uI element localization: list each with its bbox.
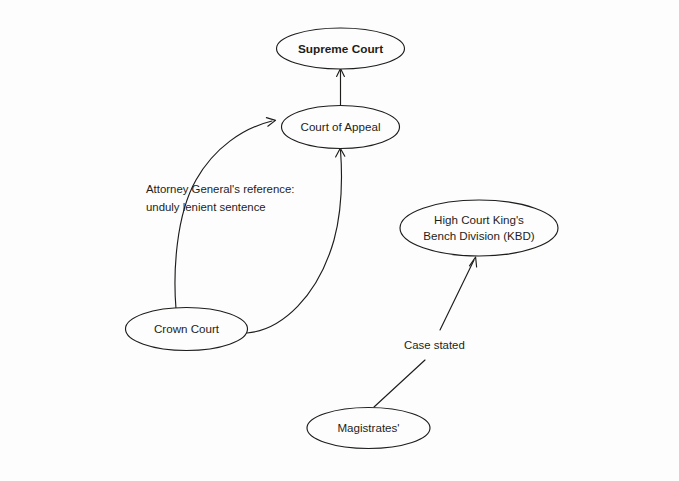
node-label-high-court-line1: High Court King's xyxy=(434,213,524,226)
edge-label-ag-line2: unduly lenient sentence xyxy=(146,201,266,213)
node-court-of-appeal[interactable]: Court of Appeal xyxy=(282,106,400,149)
edge-label-ag-line1: Attorney General's reference: xyxy=(146,183,294,195)
node-label-magistrates: Magistrates' xyxy=(337,421,399,434)
edge-crown-court-to-court-of-appeal-appeal xyxy=(247,148,345,333)
edge-curve xyxy=(247,150,341,333)
diagram-canvas: Supreme Court Court of Appeal High Court… xyxy=(0,0,679,481)
node-label-court-of-appeal: Court of Appeal xyxy=(301,120,381,133)
node-supreme-court[interactable]: Supreme Court xyxy=(277,28,405,69)
node-high-court-kbd[interactable]: High Court King's Bench Division (KBD) xyxy=(400,200,558,256)
node-magistrates[interactable]: Magistrates' xyxy=(307,408,430,449)
edge-label-case-stated-text: Case stated xyxy=(404,339,465,351)
node-crown-court[interactable]: Crown Court xyxy=(126,308,248,351)
node-label-supreme-court: Supreme Court xyxy=(298,42,383,56)
node-label-high-court-line2: Bench Division (KBD) xyxy=(423,229,535,242)
edge-label-case-stated: Case stated xyxy=(404,339,465,351)
edge-label-attorney-general-reference: Attorney General's reference: unduly len… xyxy=(146,183,294,213)
node-label-crown-court: Crown Court xyxy=(154,322,220,335)
court-hierarchy-diagram: Supreme Court Court of Appeal High Court… xyxy=(0,0,679,481)
edge-line-upper xyxy=(440,260,474,330)
edge-line-lower xyxy=(374,360,425,407)
edge-court-of-appeal-to-supreme-court xyxy=(337,69,345,106)
edge-curve xyxy=(175,121,272,309)
edge-magistrates-to-high-court-case-stated xyxy=(374,257,477,407)
edge-crown-court-to-court-of-appeal-ag-reference xyxy=(175,118,275,309)
